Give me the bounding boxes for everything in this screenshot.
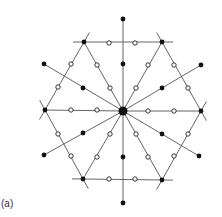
open-point <box>108 132 112 136</box>
inner-filled-point <box>121 62 126 67</box>
outer-filled-point <box>42 153 47 158</box>
open-point <box>146 109 150 113</box>
open-point <box>146 63 150 67</box>
open-point <box>133 41 137 45</box>
open-point <box>69 62 73 66</box>
open-point <box>172 109 176 113</box>
hexagon-edge <box>40 100 89 188</box>
spoke-to-vertex <box>123 42 162 111</box>
open-point <box>108 86 112 90</box>
vertex-point <box>160 40 165 45</box>
open-point <box>146 155 150 159</box>
center-point <box>119 107 128 116</box>
open-point <box>107 41 111 45</box>
open-point <box>95 108 99 112</box>
vertex-point <box>199 109 204 114</box>
open-point <box>186 132 190 136</box>
open-point <box>69 108 73 112</box>
vertex-point <box>160 178 165 183</box>
open-point <box>134 86 138 90</box>
hexagonal-lattice-diagram <box>0 0 222 217</box>
inner-filled-point <box>160 132 165 137</box>
inner-filled-point <box>81 86 86 91</box>
open-point <box>56 132 60 136</box>
spoke-to-vertex <box>83 111 123 179</box>
outer-filled-point <box>121 201 126 206</box>
vertex-point <box>81 177 86 182</box>
open-point <box>133 177 137 181</box>
vertex-point <box>43 108 48 113</box>
open-point <box>107 177 111 181</box>
open-point <box>172 154 176 158</box>
inner-filled-point <box>121 155 126 160</box>
open-point <box>186 86 190 90</box>
open-point <box>56 85 60 89</box>
spoke-to-vertex <box>123 111 162 180</box>
outer-filled-point <box>199 63 204 68</box>
inner-filled-point <box>160 86 165 91</box>
outer-filled-point <box>42 62 47 67</box>
spoke-to-vertex <box>84 42 123 111</box>
open-point <box>172 63 176 67</box>
vertex-point <box>82 40 87 45</box>
open-point <box>134 132 138 136</box>
open-point <box>69 154 73 158</box>
inner-filled-point <box>81 131 86 136</box>
outer-filled-point <box>197 154 202 159</box>
spoke-to-vertex <box>45 110 123 111</box>
outer-filled-point <box>121 17 126 22</box>
open-point <box>95 63 99 67</box>
hexagon-edge <box>72 179 173 180</box>
panel-label: (a) <box>1 198 13 209</box>
open-point <box>95 155 99 159</box>
